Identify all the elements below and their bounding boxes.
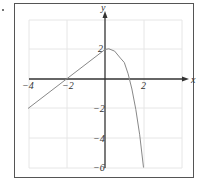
- x-axis-label: x: [190, 74, 196, 85]
- x-axis-arrow-icon: [182, 77, 189, 82]
- y-tick-label: −2: [93, 103, 105, 114]
- chart-plot: x y −4 −2 2 2 −2 −4 −6: [0, 0, 198, 183]
- y-tick-label: −4: [93, 133, 105, 144]
- x-tick-label: −4: [22, 80, 34, 91]
- y-tick-label: −6: [93, 162, 105, 173]
- axes: [29, 16, 184, 168]
- x-tick-label: 2: [141, 80, 146, 91]
- y-axis-label: y: [100, 2, 106, 13]
